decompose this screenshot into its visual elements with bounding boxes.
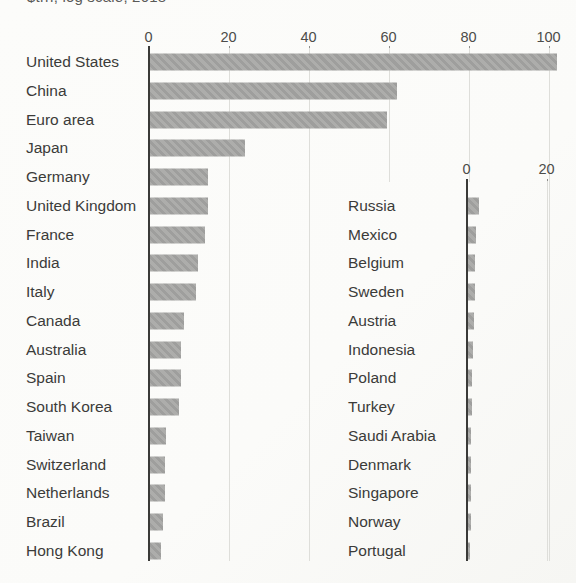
category-label: France [26, 226, 74, 244]
bar-singapore [468, 485, 471, 502]
bar-austria [468, 312, 474, 329]
bar-denmark [468, 456, 471, 473]
gridline [549, 48, 550, 561]
chart-caption-clipped: $trn, log scale, 2018 [27, 0, 166, 5]
category-label: Russia [348, 197, 395, 215]
axis-tick-label: 0 [462, 161, 470, 177]
axis-tick-label: 20 [220, 29, 236, 45]
bar-japan [150, 140, 245, 157]
category-label: China [26, 82, 67, 100]
category-label: Netherlands [26, 484, 110, 502]
category-label: India [26, 254, 60, 272]
axis-tick-label: 20 [538, 161, 554, 177]
bar-russia [468, 197, 479, 214]
category-label: Germany [26, 168, 90, 186]
bar-saudi-arabia [468, 427, 472, 444]
category-label: Spain [26, 369, 66, 387]
category-label: Saudi Arabia [348, 427, 436, 445]
category-label: Japan [26, 139, 68, 157]
bar-canada [150, 312, 184, 329]
category-label: Austria [348, 312, 396, 330]
bar-spain [150, 370, 181, 387]
bar-south-korea [150, 399, 179, 416]
axis-tick-label: 0 [144, 29, 152, 45]
category-label: Euro area [26, 111, 94, 129]
category-label: Denmark [348, 456, 411, 474]
bar-hong-kong [150, 542, 162, 559]
category-label: Poland [348, 369, 396, 387]
bar-united-states [150, 54, 557, 71]
bar-france [150, 226, 206, 243]
bar-india [150, 255, 199, 272]
bar-portugal [468, 542, 471, 559]
chart-page: $trn, log scale, 2018 020406080100United… [0, 0, 576, 583]
category-label: Norway [348, 513, 401, 531]
bar-belgium [468, 255, 476, 272]
category-label: Belgium [348, 254, 404, 272]
category-label: Indonesia [348, 341, 415, 359]
bar-sweden [468, 284, 475, 301]
category-label: Singapore [348, 484, 419, 502]
axis-tick-label: 60 [380, 29, 396, 45]
bar-indonesia [468, 341, 473, 358]
bar-brazil [150, 514, 163, 531]
bar-germany [150, 169, 208, 186]
bar-taiwan [150, 427, 167, 444]
bar-netherlands [150, 485, 165, 502]
category-label: South Korea [26, 398, 112, 416]
bar-norway [468, 514, 471, 531]
category-label: Portugal [348, 542, 406, 560]
category-label: United States [26, 53, 119, 71]
axis-tick-label: 100 [536, 29, 560, 45]
category-label: Switzerland [26, 456, 106, 474]
gridline [547, 181, 548, 561]
category-label: Mexico [348, 226, 397, 244]
bar-poland [468, 370, 473, 387]
bar-turkey [468, 399, 472, 416]
bar-euro-area [150, 111, 387, 128]
category-label: Brazil [26, 513, 65, 531]
bar-mexico [468, 226, 477, 243]
category-label: United Kingdom [26, 197, 136, 215]
category-label: Hong Kong [26, 542, 104, 560]
bar-china [150, 82, 397, 99]
bar-united-kingdom [150, 197, 208, 214]
category-label: Italy [26, 283, 54, 301]
category-label: Canada [26, 312, 80, 330]
category-label: Turkey [348, 398, 395, 416]
axis-tick-label: 80 [460, 29, 476, 45]
bar-switzerland [150, 456, 165, 473]
category-label: Sweden [348, 283, 404, 301]
bar-australia [150, 341, 181, 358]
axis-tick-label: 40 [300, 29, 316, 45]
bar-italy [150, 284, 196, 301]
category-label: Taiwan [26, 427, 74, 445]
category-label: Australia [26, 341, 86, 359]
